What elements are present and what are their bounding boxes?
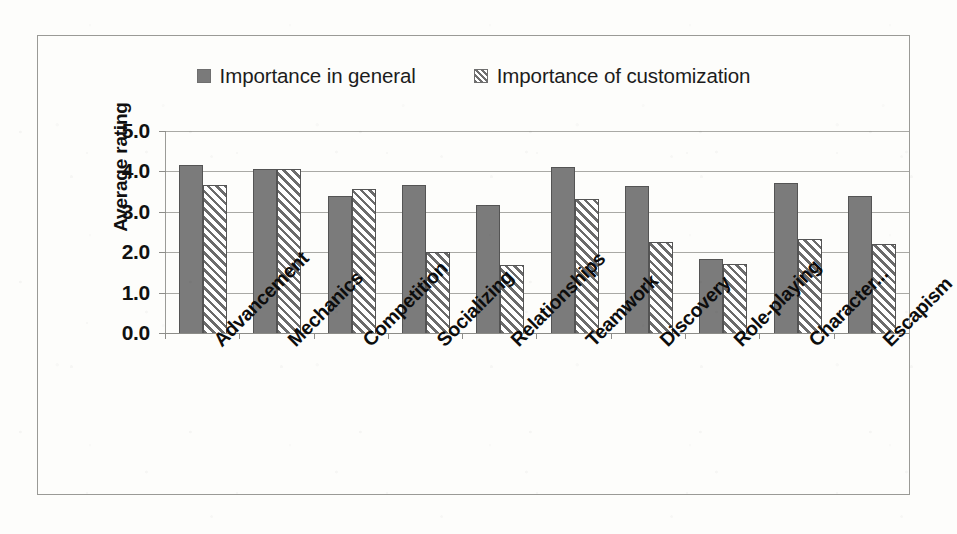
y-axis-tick-mark bbox=[159, 212, 166, 213]
y-axis-tick-mark bbox=[159, 293, 166, 294]
x-axis-category-labels: AdvancementMechanicsCompetitionSocializi… bbox=[166, 335, 909, 455]
y-axis-tick-label: 4.0 bbox=[122, 159, 150, 183]
y-axis-tick-label: 2.0 bbox=[122, 240, 150, 264]
y-axis-tick-mark bbox=[159, 333, 166, 334]
y-axis-tick-mark bbox=[159, 131, 166, 132]
y-axis-tick-mark bbox=[159, 171, 166, 172]
bar-group bbox=[166, 131, 240, 333]
y-axis-tick-label: 0.0 bbox=[122, 321, 150, 345]
bar[interactable] bbox=[203, 185, 227, 333]
y-axis-tick-mark bbox=[159, 252, 166, 253]
bar[interactable] bbox=[352, 189, 376, 333]
chart-frame: Importance in general Importance of cust… bbox=[37, 35, 910, 495]
y-axis-tick-label: 5.0 bbox=[122, 119, 150, 143]
y-axis-tick-label: 3.0 bbox=[122, 200, 150, 224]
y-axis-tick-label: 1.0 bbox=[122, 281, 150, 305]
bar[interactable] bbox=[179, 165, 203, 333]
plot-wrapper: Average rating 5.04.03.02.01.00.0 Advanc… bbox=[38, 36, 909, 494]
y-axis-tick-labels: 5.04.03.02.01.00.0 bbox=[94, 131, 150, 333]
